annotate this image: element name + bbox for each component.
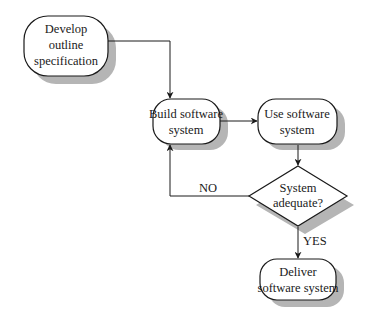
build-line-1: Build software (149, 107, 223, 121)
deliver-line-2: software system (258, 281, 339, 295)
edge-label-yes: YES (303, 234, 327, 248)
use-line-1: Use software (264, 107, 330, 121)
decision-line-2: adequate? (273, 196, 323, 210)
build-line-2: system (169, 123, 204, 137)
edge-label-no: NO (199, 181, 217, 195)
use-line-2: system (280, 123, 315, 137)
node-use: Use software system (258, 99, 337, 144)
node-build: Build software system (149, 99, 223, 144)
deliver-line-1: Deliver (279, 265, 317, 279)
build-box (153, 99, 220, 144)
decision-line-1: System (280, 181, 317, 195)
flowchart-canvas: Develop outline specification Build soft… (0, 0, 373, 313)
develop-line-2: outline (49, 38, 84, 52)
node-deliver: Deliver software system (258, 259, 339, 300)
use-box (258, 99, 337, 144)
node-develop: Develop outline specification (24, 16, 108, 76)
edge-develop-to-build (107, 41, 170, 98)
develop-line-1: Develop (45, 22, 87, 36)
develop-line-3: specification (34, 54, 99, 68)
